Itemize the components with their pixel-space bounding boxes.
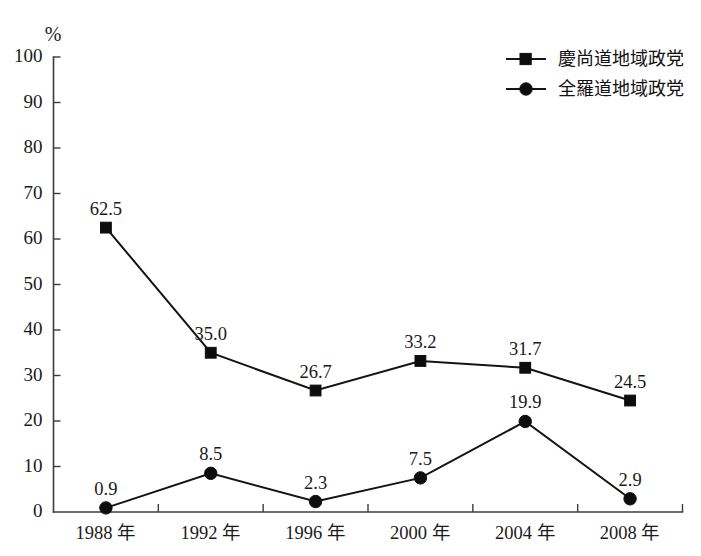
legend-entry-2: 全羅道地域政党 [506, 79, 684, 99]
data-point-label: 33.2 [404, 332, 436, 352]
x-tick-label: 2004 年 [495, 523, 556, 543]
data-point-label: 7.5 [409, 449, 432, 469]
x-tick-label: 1996 年 [285, 523, 346, 543]
y-tick-label: 60 [24, 227, 43, 248]
data-point-marker [519, 415, 531, 427]
data-point-marker [624, 493, 636, 505]
data-point-marker [101, 222, 112, 233]
data-point-marker [205, 467, 217, 479]
y-tick-label: 10 [24, 455, 43, 476]
legend-label: 慶尚道地域政党 [558, 49, 684, 69]
y-tick-label: 40 [24, 318, 43, 339]
data-point-label: 2.9 [619, 470, 642, 490]
data-point-marker [309, 495, 321, 507]
legend-entry-1: 慶尚道地域政党 [506, 49, 684, 69]
data-point-label: 0.9 [94, 479, 117, 499]
data-point-marker [415, 356, 426, 367]
y-tick-label: 0 [33, 500, 43, 521]
y-tick-label: 100 [14, 45, 43, 66]
y-tick-label: 90 [24, 91, 43, 112]
legend-marker-square [520, 53, 531, 64]
data-point-marker [100, 502, 112, 514]
y-axis-unit-label: % [45, 23, 62, 45]
x-tick-label: 1988 年 [76, 523, 137, 543]
data-point-label: 31.7 [509, 339, 541, 359]
data-point-label: 26.7 [299, 362, 331, 382]
data-point-label: 62.5 [90, 199, 122, 219]
legend-label: 全羅道地域政党 [558, 79, 684, 99]
data-point-marker [310, 385, 321, 396]
legend: 慶尚道地域政党全羅道地域政党 [506, 49, 684, 99]
x-tick-label: 2000 年 [390, 523, 451, 543]
legend-marker-circle [520, 83, 532, 95]
data-point-label: 8.5 [199, 444, 222, 464]
line-chart: % 1009080706050403020100 1988 年1992 年199… [0, 0, 701, 556]
series-line-2 [106, 421, 630, 507]
x-axis-ticks: 1988 年1992 年1996 年2000 年2004 年2008 年 [76, 504, 661, 543]
y-tick-label: 70 [24, 182, 43, 203]
data-point-label: 24.5 [614, 372, 646, 392]
data-point-marker [520, 362, 531, 373]
x-tick-label: 2008 年 [600, 523, 661, 543]
y-tick-label: 30 [24, 364, 43, 385]
data-point-marker [205, 347, 216, 358]
y-tick-label: 20 [24, 409, 43, 430]
data-point-label: 35.0 [195, 324, 227, 344]
y-tick-label: 80 [24, 136, 43, 157]
data-point-marker [414, 472, 426, 484]
x-tick-label: 1992 年 [180, 523, 241, 543]
data-point-marker [625, 395, 636, 406]
series-lines [100, 222, 637, 514]
data-point-labels: 62.535.026.733.231.724.50.98.52.37.519.9… [90, 199, 647, 499]
y-tick-label: 50 [24, 273, 43, 294]
data-point-label: 19.9 [509, 392, 541, 412]
chart-container: % 1009080706050403020100 1988 年1992 年199… [0, 0, 701, 556]
series-line-1 [106, 228, 630, 401]
data-point-label: 2.3 [304, 473, 327, 493]
